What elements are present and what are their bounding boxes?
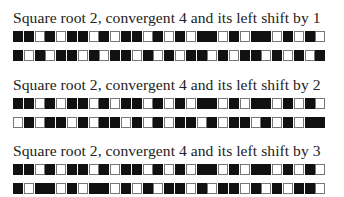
sequence-row-original (13, 164, 326, 175)
empty-square (24, 50, 34, 61)
empty-square (207, 50, 217, 61)
empty-square (35, 164, 45, 175)
filled-square (24, 98, 34, 109)
filled-square (89, 50, 99, 61)
empty-square (78, 183, 88, 194)
filled-square (251, 164, 261, 175)
filled-square (294, 50, 304, 61)
empty-square (153, 183, 163, 194)
filled-square (153, 98, 163, 109)
filled-square (56, 50, 66, 61)
filled-square (99, 183, 109, 194)
empty-square (132, 50, 142, 61)
filled-square (218, 183, 228, 194)
empty-square (251, 117, 261, 128)
filled-square (132, 31, 142, 42)
filled-square (240, 50, 250, 61)
empty-square (67, 117, 77, 128)
empty-square (294, 98, 304, 109)
filled-square (175, 183, 185, 194)
filled-square (315, 117, 325, 128)
sequence-row-shifted (13, 50, 326, 61)
empty-square (186, 31, 196, 42)
empty-square (240, 183, 250, 194)
filled-square (240, 117, 250, 128)
filled-square (207, 164, 217, 175)
filled-square (143, 50, 153, 61)
empty-square (143, 98, 153, 109)
empty-square (143, 31, 153, 42)
filled-square (207, 98, 217, 109)
filled-square (78, 98, 88, 109)
filled-square (121, 50, 131, 61)
filled-square (305, 117, 315, 128)
empty-square (261, 183, 271, 194)
empty-square (294, 117, 304, 128)
filled-square (153, 164, 163, 175)
filled-square (110, 50, 120, 61)
filled-square (175, 31, 185, 42)
empty-square (110, 98, 120, 109)
empty-square (283, 183, 293, 194)
empty-square (121, 117, 131, 128)
filled-square (45, 183, 55, 194)
filled-square (121, 183, 131, 194)
filled-square (78, 164, 88, 175)
empty-square (305, 50, 315, 61)
filled-square (305, 98, 315, 109)
filled-square (99, 164, 109, 175)
filled-square (121, 98, 131, 109)
filled-square (132, 98, 142, 109)
filled-square (121, 164, 131, 175)
filled-square (197, 183, 207, 194)
section-title: Square root 2, convergent 4 and its left… (13, 9, 321, 27)
filled-square (67, 50, 77, 61)
filled-square (251, 98, 261, 109)
empty-square (272, 31, 282, 42)
filled-square (261, 164, 271, 175)
filled-square (175, 164, 185, 175)
filled-square (110, 117, 120, 128)
empty-square (89, 98, 99, 109)
filled-square (24, 31, 34, 42)
filled-square (197, 31, 207, 42)
empty-square (35, 117, 45, 128)
filled-square (67, 98, 77, 109)
filled-square (251, 183, 261, 194)
empty-square (110, 164, 120, 175)
filled-square (229, 31, 239, 42)
filled-square (67, 164, 77, 175)
filled-square (197, 50, 207, 61)
empty-square (143, 117, 153, 128)
empty-square (229, 50, 239, 61)
filled-square (164, 50, 174, 61)
empty-square (218, 164, 228, 175)
filled-square (315, 50, 325, 61)
filled-square (229, 183, 239, 194)
empty-square (164, 164, 174, 175)
filled-square (78, 31, 88, 42)
empty-square (186, 183, 196, 194)
filled-square (13, 50, 23, 61)
filled-square (197, 164, 207, 175)
empty-square (240, 164, 250, 175)
filled-square (283, 31, 293, 42)
filled-square (78, 117, 88, 128)
empty-square (132, 183, 142, 194)
filled-square (13, 183, 23, 194)
filled-square (99, 98, 109, 109)
filled-square (153, 117, 163, 128)
empty-square (24, 183, 34, 194)
filled-square (229, 117, 239, 128)
filled-square (207, 117, 217, 128)
empty-square (186, 164, 196, 175)
empty-square (164, 98, 174, 109)
filled-square (67, 31, 77, 42)
empty-square (272, 117, 282, 128)
empty-square (89, 31, 99, 42)
empty-square (78, 50, 88, 61)
empty-square (143, 164, 153, 175)
filled-square (132, 164, 142, 175)
sequence-row-original (13, 98, 326, 109)
empty-square (153, 50, 163, 61)
